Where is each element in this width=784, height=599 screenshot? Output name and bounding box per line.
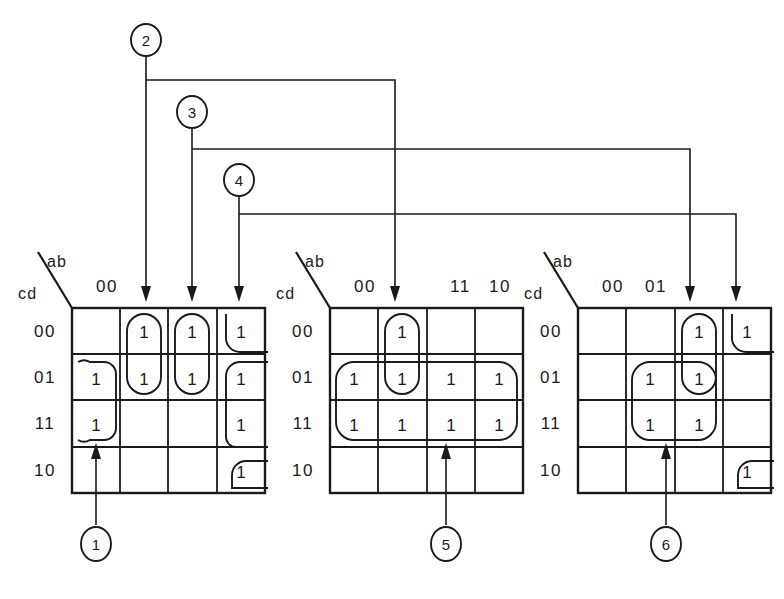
kmap-3-col-header-2: 01 xyxy=(645,277,667,296)
kmap-2-cell-r2c2: 1 xyxy=(397,370,406,389)
callout-3[interactable]: 3 xyxy=(177,96,207,128)
kmap-1-row-header-4: 10 xyxy=(34,461,56,480)
kmap-1-cell-r3c1: 1 xyxy=(91,416,100,435)
kmap-2-col-header-3: 11 xyxy=(450,277,471,296)
kmap-1-cell-r1c2: 1 xyxy=(139,323,148,342)
kmap-1-cell-r2c4: 1 xyxy=(236,370,245,389)
kmap-3-row-header-1: 00 xyxy=(540,322,562,341)
kmap-3-group-col4-row00 xyxy=(732,314,774,352)
callout-wire-1 xyxy=(91,443,101,525)
kmap-1-cell-r2c2: 1 xyxy=(139,370,148,389)
kmap-2-cell-r3c1: 1 xyxy=(349,416,358,435)
callout-1-label: 1 xyxy=(92,536,100,553)
kmap-3-cell-r1c3: 1 xyxy=(694,323,703,342)
arrowhead-4a xyxy=(234,286,244,302)
kmap-2-cell-r3c4: 1 xyxy=(494,416,503,435)
kmap-1-cell-r2c3: 1 xyxy=(187,370,196,389)
kmap-3-cell-r2c2: 1 xyxy=(645,370,654,389)
kmap-1-row-header-2: 01 xyxy=(34,368,56,387)
kmap-1-row-header-1: 00 xyxy=(34,322,56,341)
kmap-3-row-header-3: 11 xyxy=(541,414,562,433)
kmap-1-row-var: cd xyxy=(18,285,37,302)
kmap-1-cell-r3c4: 1 xyxy=(236,416,245,435)
kmap-figure-root: 2 3 4 1 5 6 ab cd 00 00 01 11 10 xyxy=(0,0,784,599)
kmap-1-group-col4-rows01-11 xyxy=(226,362,268,447)
kmap-3-cell-r3c2: 1 xyxy=(645,416,654,435)
kmap-1-col-header-1: 00 xyxy=(96,277,118,296)
kmap-1-row-header-3: 11 xyxy=(35,414,56,433)
kmap-1-column-var: ab xyxy=(47,253,67,270)
arrowhead-2a xyxy=(141,286,151,302)
callout-5-label: 5 xyxy=(442,536,450,553)
kmap-figure: 2 3 4 1 5 6 ab cd 00 00 01 11 10 xyxy=(0,0,784,599)
kmap-3-cell-r4c4: 1 xyxy=(742,463,751,482)
arrowhead-5 xyxy=(441,443,451,459)
kmap-2-cell-r2c4: 1 xyxy=(494,370,503,389)
callout-1[interactable]: 1 xyxy=(81,527,111,561)
kmap-1-cell-r4c4: 1 xyxy=(236,463,245,482)
kmap-2-row-header-2: 01 xyxy=(292,368,314,387)
arrowhead-2b xyxy=(390,286,400,302)
kmap-2-row-header-4: 10 xyxy=(292,461,314,480)
kmap-2-cell-r3c2: 1 xyxy=(397,416,406,435)
arrowhead-3b xyxy=(685,286,695,302)
callout-4-label: 4 xyxy=(235,172,243,189)
callout-6-label: 6 xyxy=(662,536,670,553)
callout-2-label: 2 xyxy=(142,32,150,49)
callout-4[interactable]: 4 xyxy=(224,164,254,196)
arrowhead-3a xyxy=(187,286,197,302)
kmap-3-cell-r1c4: 1 xyxy=(742,323,751,342)
kmap-2-cell-r3c3: 1 xyxy=(446,416,455,435)
kmap-2-col-header-4: 10 xyxy=(489,277,511,296)
callout-3-label: 3 xyxy=(188,104,196,121)
kmap-3-cell-r2c3: 1 xyxy=(694,370,703,389)
kmap-3-row-header-4: 10 xyxy=(540,461,562,480)
kmap-3-row-var: cd xyxy=(524,285,543,302)
kmap-1-group-col4-row00 xyxy=(226,314,268,352)
arrowhead-1 xyxy=(91,443,101,459)
kmap-2: ab cd 00 11 10 00 01 11 10 1 1 1 1 1 1 1… xyxy=(276,252,523,493)
callout-5[interactable]: 5 xyxy=(431,527,461,561)
kmap-3-cell-r3c3: 1 xyxy=(694,416,703,435)
kmap-2-row-header-1: 00 xyxy=(292,322,314,341)
kmap-3-column-var: ab xyxy=(553,253,573,270)
kmap-2-cell-r2c3: 1 xyxy=(446,370,455,389)
kmap-2-cell-r1c2: 1 xyxy=(397,323,406,342)
arrowhead-6 xyxy=(661,443,671,459)
kmap-1-cell-r1c4: 1 xyxy=(236,323,245,342)
kmap-3-col-header-1: 00 xyxy=(602,277,624,296)
kmap-2-row-header-3: 11 xyxy=(293,414,314,433)
kmap-2-column-var: ab xyxy=(305,253,325,270)
callout-wire-6 xyxy=(661,443,671,525)
kmap-1-cell-r2c1: 1 xyxy=(91,370,100,389)
kmap-3-row-header-2: 01 xyxy=(540,368,562,387)
kmap-2-cell-r2c1: 1 xyxy=(349,370,358,389)
callout-2[interactable]: 2 xyxy=(131,24,161,56)
kmap-1-cell-r1c3: 1 xyxy=(187,323,196,342)
kmap-2-row-var: cd xyxy=(276,285,295,302)
callout-6[interactable]: 6 xyxy=(651,527,681,561)
kmap-2-col-header-1: 00 xyxy=(354,277,376,296)
callout-wire-5 xyxy=(441,443,451,525)
arrowhead-4b xyxy=(731,286,741,302)
callout-wire-2 xyxy=(141,55,400,302)
